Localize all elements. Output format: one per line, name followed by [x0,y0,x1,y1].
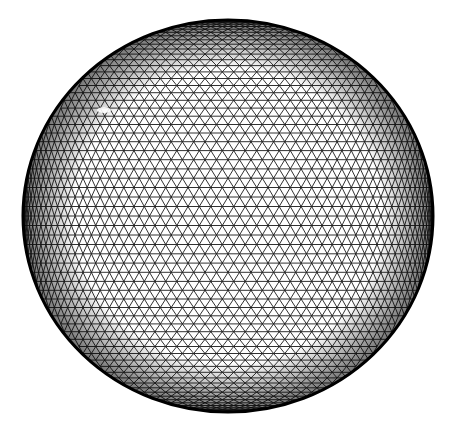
triangulated-sphere [0,0,454,427]
sphere-mesh-figure [0,0,454,427]
specular-highlight [97,107,111,113]
rim-shading [23,20,433,412]
